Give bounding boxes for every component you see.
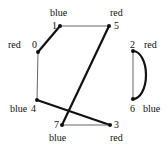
graph-diagram: 0 red 1 blue 5 red 2 red 6 blue 4 blue 7… — [0, 0, 168, 149]
edge-4-3 — [37, 100, 110, 125]
node-2-color-label: red — [144, 39, 157, 50]
node-4-id: 4 — [31, 103, 36, 114]
node-3-id: 3 — [114, 119, 119, 130]
node-5-id: 5 — [114, 20, 119, 31]
edge-0-4 — [37, 52, 38, 100]
node-7-color-label: blue — [49, 132, 67, 143]
node-6 — [131, 97, 135, 101]
node-5-color-label: red — [110, 7, 123, 18]
node-1-color-label: blue — [50, 7, 68, 18]
node-1-id: 1 — [52, 20, 57, 31]
node-3 — [108, 123, 112, 127]
node-0 — [36, 50, 40, 54]
node-1 — [58, 24, 62, 28]
node-7-id: 7 — [54, 119, 59, 130]
node-0-color-label: red — [8, 39, 21, 50]
node-0-id: 0 — [32, 39, 37, 50]
node-2-id: 2 — [130, 39, 135, 50]
node-4-color-label: blue — [10, 103, 28, 114]
node-3-color-label: red — [110, 132, 123, 143]
node-6-id: 6 — [130, 103, 135, 114]
node-5 — [107, 24, 111, 28]
node-4 — [35, 98, 39, 102]
node-6-color-label: blue — [143, 103, 161, 114]
node-7 — [60, 123, 64, 127]
edge-2-6-arc — [133, 51, 146, 99]
